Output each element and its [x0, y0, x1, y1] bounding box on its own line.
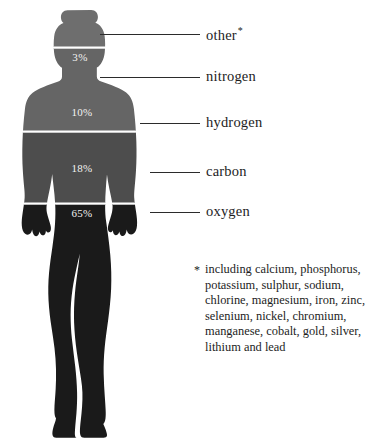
divider-nitrogen-hydrogen — [0, 131, 380, 133]
leader-line-nitrogen — [100, 77, 200, 78]
footnote: * including calcium, phosphorus, potassi… — [205, 262, 380, 356]
element-name-carbon: carbon — [206, 163, 247, 179]
band-other — [0, 0, 380, 47]
footnote-asterisk: * — [194, 263, 200, 279]
element-name-oxygen: oxygen — [206, 203, 250, 219]
element-name-other: other — [206, 27, 237, 43]
leader-line-carbon — [150, 172, 200, 173]
element-label-hydrogen: hydrogen — [206, 114, 262, 131]
divider-hydrogen-oxygen — [0, 203, 380, 205]
divider-other-nitrogen — [0, 47, 380, 49]
band-hydrogen — [0, 132, 380, 203]
leader-line-oxygen — [150, 212, 200, 213]
element-name-hydrogen: hydrogen — [206, 114, 262, 130]
element-label-nitrogen: nitrogen — [206, 68, 256, 85]
human-body-silhouette — [0, 0, 380, 448]
infographic-canvas: 3% 10% 18% 65% other* nitrogen hydrogen … — [0, 0, 380, 448]
element-label-other: other* — [206, 25, 243, 44]
footnote-text: including calcium, phosphorus, potassium… — [205, 262, 380, 356]
leader-line-hydrogen — [140, 123, 200, 124]
element-name-nitrogen: nitrogen — [206, 68, 256, 84]
element-label-oxygen: oxygen — [206, 203, 250, 220]
band-nitrogen — [0, 48, 380, 131]
leader-line-other — [100, 34, 200, 35]
footnote-marker-other: * — [238, 25, 243, 36]
element-label-carbon: carbon — [206, 163, 247, 180]
composition-bands — [0, 0, 380, 448]
